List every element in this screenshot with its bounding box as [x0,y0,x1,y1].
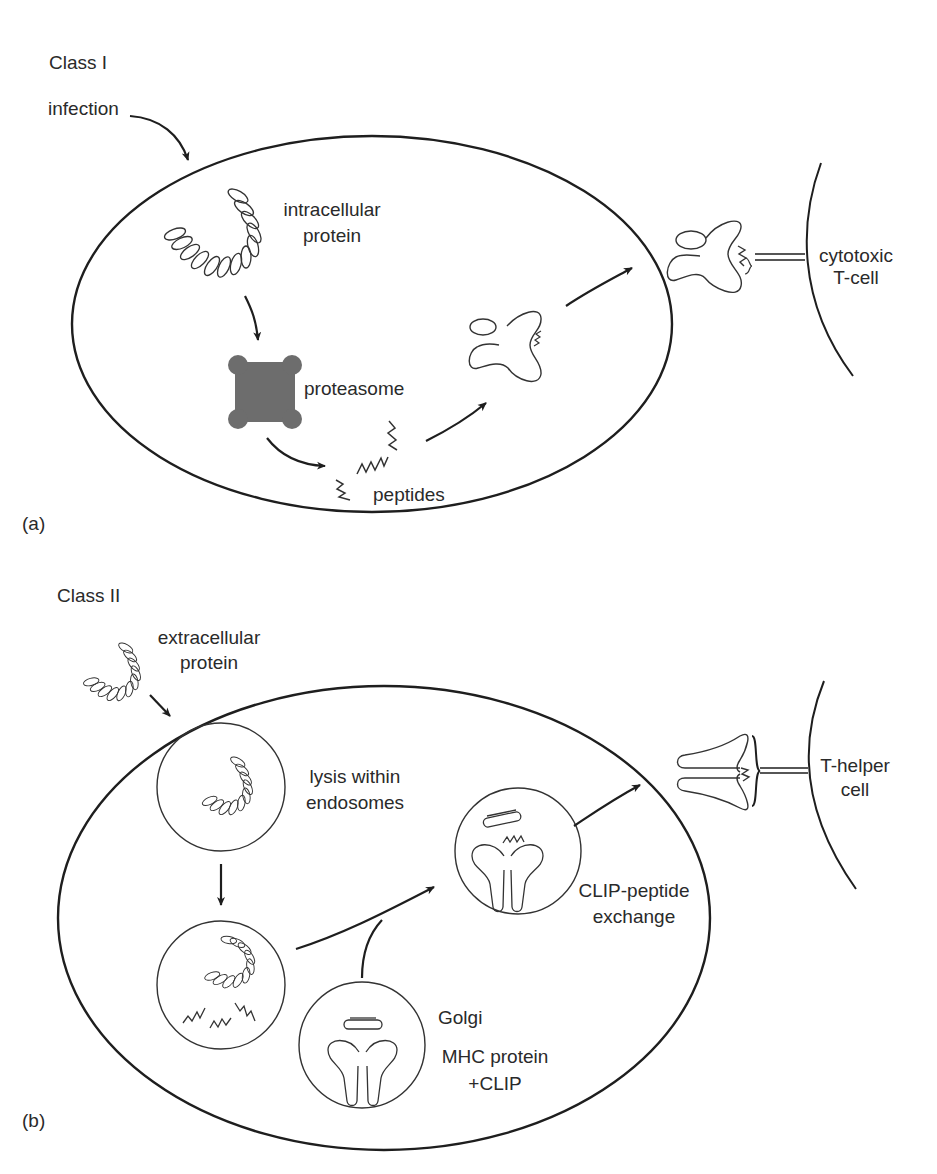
exchange-to-surface-arrow [574,785,640,826]
uptake-arrow [150,695,170,716]
exchange-label-line2: exchange [570,904,698,930]
golgi-vesicle [299,982,425,1108]
to-proteasome-arrow [245,296,258,340]
t-helper-label-line2: cell [814,778,896,802]
cytotoxic-label-line2: T-cell [810,267,902,289]
intracellular-label-line1: intracellular [272,197,392,223]
infection-arrow [130,116,188,160]
partially-digested-helix-icon [204,935,257,990]
class-i-title: Class I [49,51,107,74]
infection-label: infection [48,97,119,120]
mhc-to-surface-arrow [566,268,632,306]
to-peptides-arrow [267,438,325,466]
lysis-label-line1: lysis within [300,764,410,790]
proteasome-label: proteasome [304,377,404,400]
mhc-class-i-molecule-icon [469,312,541,382]
lysis-label-line2: endosomes [300,790,410,816]
endosome-lysis-circle [157,723,285,851]
class-ii-title: Class II [57,584,120,607]
golgi-branch-line [362,920,382,978]
mhc-class-ii-with-clip-icon [328,1018,397,1106]
intracellular-protein-label: intracellular protein [272,197,392,249]
diagram-canvas [0,0,937,1174]
extracellular-protein-label: extracellular protein [150,625,268,675]
cytotoxic-t-cell-label: cytotoxic T-cell [810,245,902,289]
extracellular-label-line1: extracellular [150,625,268,650]
tcr-binding-lines-a [755,254,805,260]
proteasome-icon [228,355,302,429]
panel-b-label: (b) [22,1109,45,1132]
intracellular-protein-helix-icon [163,186,264,279]
intracellular-label-line2: protein [272,223,392,249]
extracellular-protein-helix-icon [83,641,143,703]
golgi-label: Golgi [438,1006,482,1029]
endosome-protein-helix-icon [201,755,254,817]
surface-mhc-class-ii-icon [678,734,761,809]
mhc-class-ii-with-peptide-icon [472,810,543,912]
mhc-label-line2: +CLIP [436,1070,554,1097]
surface-mhc-class-i-icon [667,221,752,292]
exchange-label-line1: CLIP-peptide [570,878,698,904]
t-helper-cell-label: T-helper cell [814,754,896,802]
peptides-label: peptides [373,483,445,506]
clip-peptide-exchange-label: CLIP-peptide exchange [570,878,698,930]
panel-a [72,116,853,512]
lysis-within-endosomes-label: lysis within endosomes [300,764,410,816]
panel-a-label: (a) [22,512,45,535]
antigen-presenting-cell-a [72,136,672,512]
mhc-protein-clip-label: MHC protein +CLIP [436,1043,554,1097]
extracellular-label-line2: protein [150,650,268,675]
mhc-label-line1: MHC protein [436,1043,554,1070]
endosome-peptides-icon [183,1003,255,1028]
t-helper-label-line1: T-helper [814,754,896,778]
to-exchange-arrow [296,887,434,949]
clip-exchange-vesicle [455,788,581,914]
cytotoxic-label-line1: cytotoxic [810,245,902,267]
tcr-binding-lines-b [760,768,808,773]
peptide-to-mhc-arrow [426,403,486,441]
